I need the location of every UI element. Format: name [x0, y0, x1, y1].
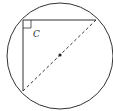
inscribed-triangle-diagram: C — [0, 0, 113, 111]
center-dot — [58, 53, 61, 56]
diagram-canvas: C — [0, 0, 113, 111]
vertex-label-c: C — [33, 29, 40, 39]
right-angle-marker — [23, 20, 31, 28]
